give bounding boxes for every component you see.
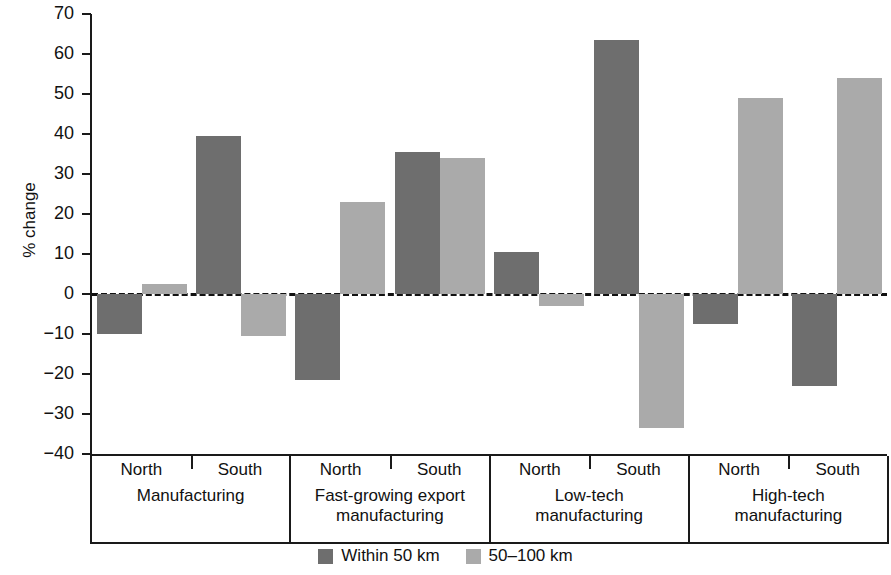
subcategory-label-north: North [291,456,390,484]
category-group: NorthSouthManufacturing [92,456,289,542]
bar [241,294,286,336]
subcategory-label-north: North [491,456,590,484]
y-axis-tick-label: −10 [14,324,74,342]
category-group: NorthSouthFast-growing export manufactur… [289,456,488,542]
y-axis-tick-label: −30 [14,404,74,422]
subcategory-label-south: South [589,456,688,484]
bar [837,78,882,294]
y-axis-tick-label: −20 [14,364,74,382]
subcategory-label-north: North [92,456,191,484]
bar [594,40,639,294]
legend-swatch-icon [466,549,481,564]
bar [97,294,142,334]
y-axis-tick-label: 20 [14,204,74,222]
bar [693,294,738,324]
legend-item: 50–100 km [466,546,573,566]
subcategory-row: NorthSouth [92,456,289,484]
legend-item: Within 50 km [318,546,439,566]
subcategory-label-south: South [191,456,290,484]
legend-label: 50–100 km [489,546,573,566]
bar-chart: % change 706050403020100−10−20−30−40 Nor… [0,0,891,575]
subcategory-row: NorthSouth [690,456,887,484]
category-label: Manufacturing [92,484,289,506]
y-axis-tick-label: 0 [14,284,74,302]
subcategory-label-north: North [690,456,789,484]
legend-label: Within 50 km [341,546,439,566]
subcategory-label-south: South [390,456,489,484]
legend-swatch-icon [318,549,333,564]
category-label: High-tech manufacturing [690,484,887,526]
y-axis-tick-label: −40 [14,444,74,462]
bar [639,294,684,428]
category-label: Fast-growing export manufacturing [291,484,488,526]
bar [440,158,485,294]
category-label: Low-tech manufacturing [491,484,688,526]
category-group: NorthSouthLow-tech manufacturing [489,456,688,542]
bar [340,202,385,294]
bar [738,98,783,294]
category-label-table: NorthSouthManufacturingNorthSouthFast-gr… [90,456,889,544]
y-axis-tick-label: 50 [14,84,74,102]
category-group: NorthSouthHigh-tech manufacturing [688,456,887,542]
chart-legend: Within 50 km50–100 km [0,546,891,566]
bar [792,294,837,386]
y-axis-tick-label: 60 [14,44,74,62]
y-axis-tick-label: 40 [14,124,74,142]
bar [395,152,440,294]
y-axis-tick-label: 30 [14,164,74,182]
bar [295,294,340,380]
subcategory-row: NorthSouth [291,456,488,484]
plot-area [92,14,887,454]
y-axis-tick-label: 70 [14,4,74,22]
y-axis-tick-label: 10 [14,244,74,262]
subcategory-label-south: South [788,456,887,484]
bar [494,252,539,294]
bar [539,294,584,306]
bar [196,136,241,294]
bar [142,284,187,294]
subcategory-row: NorthSouth [491,456,688,484]
